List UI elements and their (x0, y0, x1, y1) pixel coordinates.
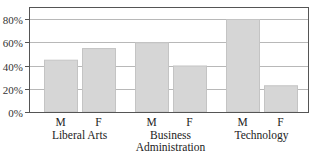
category-label: Business (150, 129, 191, 141)
series-label: F (95, 116, 101, 128)
bar-business-administration-m (136, 43, 169, 112)
y-tick-label: 60% (3, 37, 23, 49)
y-axis: 0%20%40%60%80% (3, 14, 29, 119)
x-axis: MFLiberal ArtsMFBusinessAdministrationMF… (52, 116, 289, 153)
y-tick-label: 80% (3, 14, 23, 26)
series-label: M (237, 116, 247, 128)
bar-chart: 0%20%40%60%80% MFLiberal ArtsMFBusinessA… (0, 0, 313, 154)
y-tick-label: 20% (3, 84, 23, 96)
category-label: Liberal Arts (52, 129, 108, 141)
category-label: Technology (234, 129, 288, 142)
series-label: F (186, 116, 192, 128)
category-label: Administration (136, 141, 206, 153)
y-tick-label: 40% (3, 61, 23, 73)
y-tick-label: 0% (8, 107, 23, 119)
bar-technology-f (265, 86, 298, 112)
bar-liberal-arts-f (83, 49, 116, 112)
series-label: F (277, 116, 283, 128)
bar-business-administration-f (174, 66, 207, 112)
series-label: M (146, 116, 156, 128)
bar-technology-m (227, 20, 260, 113)
bar-liberal-arts-m (45, 60, 78, 112)
bars (45, 20, 298, 113)
series-label: M (55, 116, 65, 128)
